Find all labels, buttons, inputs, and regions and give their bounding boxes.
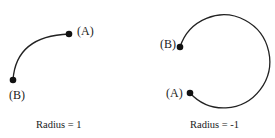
left-caption: Radius = 1 [36,120,82,131]
right-point-a-label: (A) [166,87,183,99]
point-b-dot [10,77,17,84]
point-a-dot [66,31,73,38]
left-point-a-label: (A) [77,25,94,37]
right-point-b-label: (B) [160,38,176,50]
right-caption: Radius = -1 [190,120,239,131]
arc-radius-negative [177,15,270,108]
arc-diagrams [0,0,275,138]
point-a-dot [187,90,194,97]
point-b-dot [177,44,184,51]
arc-radius-positive [10,31,73,84]
left-point-b-label: (B) [9,89,25,101]
